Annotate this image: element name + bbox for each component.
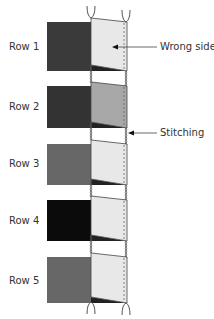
row-2-block bbox=[47, 86, 91, 128]
stitching-left bbox=[90, 235, 91, 253]
row-5-panel bbox=[91, 253, 127, 303]
top-loop-right bbox=[122, 10, 130, 22]
row-1-block bbox=[47, 22, 91, 71]
row-2-panel bbox=[91, 82, 127, 128]
stitching-left bbox=[90, 179, 91, 197]
stitching-left bbox=[90, 65, 91, 83]
stitching-right bbox=[125, 71, 126, 86]
bottom-loop-left bbox=[87, 302, 95, 314]
row-5-block bbox=[47, 257, 91, 303]
stitching-arrow-head bbox=[128, 131, 134, 136]
stitching-right bbox=[126, 185, 127, 200]
stitching-right bbox=[125, 185, 126, 200]
row-4-block bbox=[47, 200, 91, 241]
row-label-3: Row 3 bbox=[9, 158, 39, 169]
row-3-block bbox=[47, 144, 91, 185]
stitching-right bbox=[126, 71, 127, 86]
row-label-2: Row 2 bbox=[9, 101, 39, 112]
stitching-label: Stitching bbox=[160, 127, 204, 138]
row-1-panel bbox=[91, 18, 127, 71]
stitching-right bbox=[125, 241, 126, 259]
seam-diagram: Row 1 Row 2 Row 3 Row 4 Row 5 Wrong side… bbox=[0, 0, 214, 319]
stitching-left bbox=[90, 122, 91, 140]
stitching-right bbox=[125, 128, 126, 146]
row-label-5: Row 5 bbox=[9, 275, 39, 286]
row-4-panel bbox=[91, 196, 127, 241]
bottom-loop-right bbox=[122, 303, 130, 315]
top-loop-left bbox=[87, 6, 95, 18]
wrong-side-label: Wrong side bbox=[160, 41, 214, 52]
row-label-4: Row 4 bbox=[9, 215, 39, 226]
row-label-1: Row 1 bbox=[9, 41, 39, 52]
row-3-panel bbox=[91, 140, 127, 185]
